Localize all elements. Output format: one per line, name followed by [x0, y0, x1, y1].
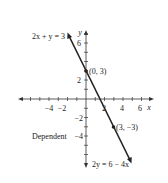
- x-tick-label: 4: [120, 104, 124, 113]
- equation-top: 2x + y = 3: [32, 32, 65, 41]
- y-tick-label: −2: [74, 114, 83, 123]
- y-tick-label: −4: [74, 132, 83, 141]
- y-tick-label: 6: [77, 39, 81, 48]
- x-axis-label: x: [146, 103, 151, 112]
- equation-bottom: 2y = 6 − 4x: [92, 160, 129, 169]
- point-label: (0, 3): [89, 67, 107, 76]
- x-tick-label: −4: [45, 104, 54, 113]
- classification-label: Dependent: [32, 132, 67, 141]
- y-tick-label: 2: [77, 76, 81, 85]
- point-label: (3, −3): [116, 123, 138, 132]
- data-point: [112, 125, 116, 129]
- x-tick-label: −2: [58, 104, 67, 113]
- data-point: [84, 69, 88, 73]
- y-axis-label: y: [77, 28, 82, 37]
- graph: −4 −2 2 4 6 x 6 2 −2 −4 y (0, 3) (3, −3)…: [0, 0, 168, 183]
- x-tick-label: 6: [138, 104, 142, 113]
